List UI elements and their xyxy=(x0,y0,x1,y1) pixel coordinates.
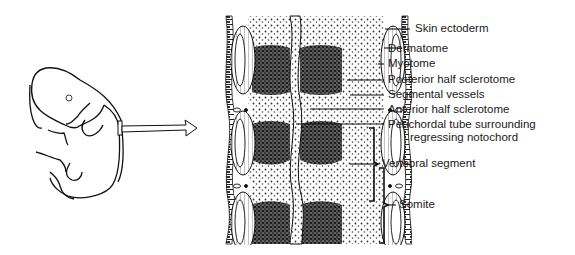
embryo-illustration xyxy=(30,68,123,199)
label-perichordal-tube: Perichordal tube surrounding regressing … xyxy=(388,118,536,144)
label-segmental-vessels: Segmental vessels xyxy=(388,88,485,101)
label-vertebral-segment: Vertebral segment xyxy=(382,157,475,170)
label-perichordal-line2: regressing notochord xyxy=(388,131,536,144)
magnify-arrow xyxy=(122,120,197,136)
label-skin-ectoderm: Skin ectoderm xyxy=(415,22,489,35)
label-somite: Somite xyxy=(399,198,435,211)
label-anterior-half-sclerotome: Anterior half sclerotome xyxy=(388,103,509,116)
label-perichordal-line1: Perichordal tube surrounding xyxy=(388,118,536,130)
label-myotome: Myotome xyxy=(388,57,435,70)
inset-marker xyxy=(118,121,122,135)
label-posterior-half-sclerotome: Posterior half sclerotome xyxy=(388,73,515,86)
label-dermatome: Dermatome xyxy=(388,42,448,55)
